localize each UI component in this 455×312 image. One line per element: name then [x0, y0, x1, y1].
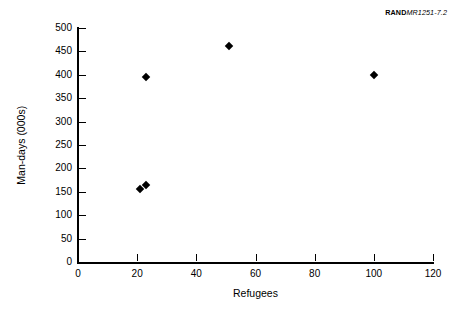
y-tick-label: 250 [55, 140, 72, 150]
rand-logo-text: RAND [385, 8, 406, 17]
y-tick-mark [79, 168, 86, 169]
plot-area: 050100150200250300350400450500 020406080… [78, 28, 433, 262]
y-tick-label: 300 [55, 117, 72, 127]
x-tick-label: 120 [425, 269, 442, 279]
x-tick-mark [374, 254, 375, 261]
x-tick-mark [137, 254, 138, 261]
x-tick-mark [315, 254, 316, 261]
y-tick-mark [79, 192, 86, 193]
y-tick-label: 200 [55, 163, 72, 173]
x-tick-mark [256, 254, 257, 261]
y-tick-mark [79, 51, 86, 52]
y-tick-mark [79, 98, 86, 99]
data-point [370, 71, 378, 79]
y-tick-mark [79, 239, 86, 240]
x-tick-mark [196, 254, 197, 261]
y-tick-label: 500 [55, 23, 72, 33]
x-tick-label: 100 [365, 269, 382, 279]
x-tick-label: 40 [191, 269, 202, 279]
y-tick-label: 50 [61, 234, 72, 244]
y-tick-label: 100 [55, 210, 72, 220]
figure-scatter-plot: RANDMR1251-7.2 0501001502002503003504004… [0, 0, 455, 312]
rand-report-number: MR1251-7.2 [406, 8, 447, 17]
y-tick-mark [79, 215, 86, 216]
y-tick-mark [79, 262, 86, 263]
y-axis-title: Man-days (000s) [14, 28, 28, 262]
x-tick-label: 0 [75, 269, 81, 279]
x-tick-label: 60 [250, 269, 261, 279]
x-axis-title: Refugees [78, 288, 433, 299]
y-axis-title-label: Man-days (000s) [16, 106, 27, 185]
x-tick-label: 20 [132, 269, 143, 279]
x-tick-mark [433, 254, 434, 261]
y-tick-label: 350 [55, 93, 72, 103]
x-axis-line [77, 262, 434, 264]
data-point [225, 42, 233, 50]
y-tick-label: 0 [66, 257, 72, 267]
x-axis-title-label: Refugees [233, 287, 278, 299]
data-point [142, 73, 150, 81]
y-tick-label: 150 [55, 187, 72, 197]
y-tick-mark [79, 122, 86, 123]
y-tick-mark [79, 145, 86, 146]
y-tick-mark [79, 28, 86, 29]
y-tick-label: 450 [55, 46, 72, 56]
x-tick-label: 80 [309, 269, 320, 279]
rand-figure-identifier: RANDMR1251-7.2 [385, 9, 447, 16]
y-tick-label: 400 [55, 70, 72, 80]
y-tick-mark [79, 75, 86, 76]
